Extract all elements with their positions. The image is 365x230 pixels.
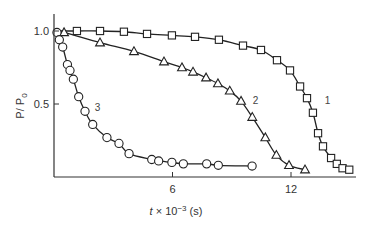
square-marker — [303, 95, 310, 102]
square-marker — [273, 57, 280, 64]
circle-marker — [155, 157, 163, 165]
series-label-3: 3 — [95, 102, 101, 113]
y-tick-label: 1.0 — [34, 25, 49, 37]
y-tick-label: 0.5 — [34, 98, 49, 110]
square-marker — [73, 27, 80, 34]
square-marker — [215, 36, 222, 43]
square-marker — [314, 130, 321, 137]
series-label-1: 1 — [325, 95, 331, 106]
square-marker — [296, 83, 303, 90]
circle-marker — [59, 43, 67, 51]
line-chart: 123 0.51.0 612 P/ P0 t × 10−3 (s) — [0, 0, 365, 230]
series-3: 3 — [53, 28, 256, 170]
square-marker — [339, 165, 346, 172]
circle-marker — [214, 161, 222, 169]
circle-marker — [89, 120, 97, 128]
circle-marker — [125, 150, 133, 158]
circle-marker — [115, 139, 123, 147]
square-marker — [257, 46, 264, 53]
plot-area: 123 — [53, 27, 353, 173]
triangle-marker — [261, 133, 270, 141]
square-marker — [319, 143, 326, 150]
square-marker — [191, 33, 198, 40]
square-marker — [239, 42, 246, 49]
square-marker — [143, 30, 150, 37]
circle-marker — [248, 162, 256, 170]
circle-marker — [66, 66, 74, 74]
circle-marker — [168, 158, 176, 166]
square-marker — [346, 166, 353, 173]
square-marker — [286, 67, 293, 74]
series-1: 1 — [54, 27, 353, 173]
series-2: 2 — [54, 28, 309, 173]
square-marker — [168, 32, 175, 39]
triangle-marker — [248, 113, 257, 121]
x-tick-label: 12 — [285, 183, 297, 195]
x-axis-ticks: 612 — [169, 172, 297, 195]
triangle-marker — [285, 161, 294, 169]
circle-marker — [179, 160, 187, 168]
circle-marker — [75, 93, 83, 101]
triangle-marker — [214, 79, 223, 87]
circle-marker — [103, 133, 111, 141]
series-label-2: 2 — [253, 95, 259, 106]
circle-marker — [203, 160, 211, 168]
square-marker — [309, 109, 316, 116]
triangle-marker — [225, 86, 234, 94]
square-marker — [96, 27, 103, 34]
square-marker — [120, 28, 127, 35]
circle-marker — [69, 75, 77, 83]
series-line — [54, 31, 305, 170]
x-axis-title: t × 10−3 (s) — [150, 204, 203, 217]
x-tick-label: 6 — [169, 183, 175, 195]
circle-marker — [81, 107, 89, 115]
y-axis-title: P/ P0 — [14, 93, 29, 119]
series-line — [54, 31, 252, 166]
triangle-marker — [202, 73, 211, 81]
